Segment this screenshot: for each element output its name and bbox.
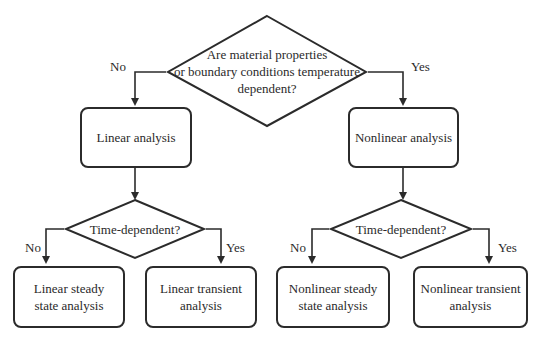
linear-transient-line-2: analysis — [160, 297, 242, 314]
linear-analysis-label: Linear analysis — [96, 129, 175, 146]
linear-transient-label: Linear transient analysis — [160, 280, 242, 314]
root-yes-label: Yes — [411, 59, 430, 75]
root-decision-line-3: dependent? — [168, 80, 366, 97]
right-yes-connector — [473, 229, 489, 258]
root-yes-connector — [368, 72, 403, 100]
nonlinear-steady-state-box: Nonlinear steady state analysis — [276, 266, 390, 328]
root-decision-line-1: Are material properties — [168, 46, 366, 63]
left-yes-label: Yes — [226, 240, 245, 256]
left-time-decision-text: Time-dependent? — [66, 221, 204, 238]
nonlinear-analysis-box: Nonlinear analysis — [348, 107, 459, 168]
left-no-connector — [46, 229, 64, 258]
nonlinear-steady-line-1: Nonlinear steady — [289, 280, 377, 297]
right-no-connector — [312, 229, 329, 258]
linear-transient-box: Linear transient analysis — [145, 266, 257, 328]
right-no-label: No — [290, 240, 306, 256]
nonlinear-transient-box: Nonlinear transient analysis — [413, 266, 528, 328]
left-no-label: No — [25, 240, 41, 256]
linear-steady-line-2: state analysis — [34, 297, 104, 314]
nonlinear-steady-line-2: state analysis — [289, 297, 377, 314]
linear-steady-state-label: Linear steady state analysis — [34, 280, 104, 314]
root-decision-line-2: or boundary conditions temperature — [168, 63, 366, 80]
linear-analysis-box: Linear analysis — [80, 107, 192, 168]
linear-transient-line-1: Linear transient — [160, 280, 242, 297]
right-yes-label: Yes — [498, 240, 517, 256]
root-decision-text: Are material properties or boundary cond… — [168, 46, 366, 97]
nonlinear-analysis-label: Nonlinear analysis — [355, 129, 452, 146]
right-time-decision-text: Time-dependent? — [331, 221, 471, 238]
nonlinear-transient-line-2: analysis — [421, 297, 521, 314]
nonlinear-transient-label: Nonlinear transient analysis — [421, 280, 521, 314]
root-no-label: No — [110, 59, 126, 75]
nonlinear-transient-line-1: Nonlinear transient — [421, 280, 521, 297]
linear-steady-line-1: Linear steady — [34, 280, 104, 297]
nonlinear-steady-state-label: Nonlinear steady state analysis — [289, 280, 377, 314]
root-no-connector — [135, 72, 166, 100]
linear-steady-state-box: Linear steady state analysis — [13, 266, 125, 328]
left-yes-connector — [206, 229, 221, 258]
